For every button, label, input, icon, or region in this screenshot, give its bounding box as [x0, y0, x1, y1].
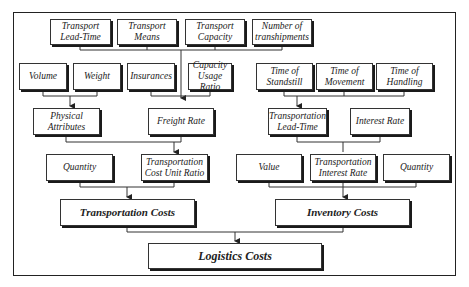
node-label: Transport Lead-Time [60, 21, 101, 43]
node-label: Transport Capacity [196, 21, 234, 43]
node-physical-attributes: Physical Attributes [33, 108, 100, 135]
node-time-of-movement: Time of Movement [316, 63, 373, 90]
node-label: Time of Handling [387, 66, 423, 88]
node-label: Capacity Usage Ratio [189, 60, 231, 93]
node-quantity-right: Quantity [383, 154, 450, 181]
node-label: Quantity [400, 162, 433, 173]
node-label: Transportation Interest Rate [314, 157, 371, 179]
node-label: Time of Standstill [267, 66, 303, 88]
node-time-of-handling: Time of Handling [376, 63, 433, 90]
node-inventory-costs: Inventory Costs [275, 199, 410, 226]
node-label: Value [258, 162, 279, 173]
node-label: Logistics Costs [198, 251, 272, 262]
node-label: Insurances [130, 71, 172, 82]
node-label: Transportation Cost Unit Ratio [145, 157, 205, 179]
node-number-of-transhipments: Number of transhipments [252, 19, 312, 45]
node-label: Transport Means [128, 21, 166, 43]
node-transport-lead-time: Transport Lead-Time [50, 19, 111, 45]
node-transport-means: Transport Means [117, 19, 177, 45]
node-weight: Weight [73, 63, 121, 90]
node-interest-rate: Interest Rate [350, 108, 410, 135]
node-label: Transportation Costs [80, 207, 175, 218]
node-volume: Volume [19, 63, 67, 90]
node-label: Number of transhipments [255, 21, 309, 43]
node-transportation-cost-unit-ratio: Transportation Cost Unit Ratio [141, 154, 208, 181]
node-label: Volume [29, 71, 57, 82]
node-label: Physical Attributes [48, 111, 85, 133]
node-logistics-costs: Logistics Costs [148, 243, 322, 269]
node-label: Time of Movement [325, 66, 365, 88]
node-label: Quantity [63, 162, 96, 173]
node-label: Freight Rate [157, 116, 205, 127]
node-label: Inventory Costs [307, 207, 378, 218]
node-freight-rate: Freight Rate [148, 108, 214, 135]
node-transportation-lead-time: Transportation Lead-Time [268, 108, 327, 135]
node-label: Transportation Lead-Time [269, 111, 326, 133]
node-value: Value [236, 154, 302, 181]
node-capacity-usage-ratio: Capacity Usage Ratio [188, 63, 232, 90]
node-label: Weight [84, 71, 110, 82]
node-transportation-interest-rate: Transportation Interest Rate [310, 154, 376, 181]
node-time-of-standstill: Time of Standstill [256, 63, 313, 90]
node-label: Interest Rate [356, 116, 404, 127]
node-transport-capacity: Transport Capacity [185, 19, 245, 45]
node-insurances: Insurances [127, 63, 175, 90]
node-quantity-left: Quantity [46, 154, 113, 181]
node-transportation-costs: Transportation Costs [60, 199, 195, 226]
